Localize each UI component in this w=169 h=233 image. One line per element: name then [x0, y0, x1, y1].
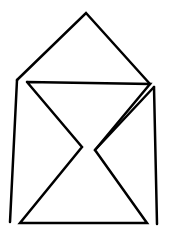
diagram-canvas: [0, 0, 169, 233]
roof-line: [17, 13, 150, 84]
left-wall-line: [10, 80, 17, 222]
right-upper-diagonal-line: [95, 87, 154, 150]
right-wall-line: [154, 87, 157, 224]
house-hourglass-drawing: [0, 0, 169, 233]
hourglass-shape: [20, 82, 150, 223]
